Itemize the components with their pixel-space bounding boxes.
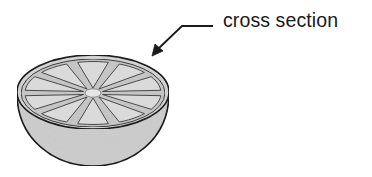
fruit-core	[85, 89, 101, 97]
cross-section-label: cross section	[223, 11, 338, 31]
pointer-arrow	[152, 26, 213, 56]
diagram-canvas: cross section	[0, 0, 372, 177]
